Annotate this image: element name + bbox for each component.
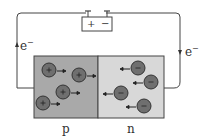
current-arrow-left-icon — [15, 42, 19, 47]
battery-negative-label: − — [101, 19, 109, 29]
electron-label-left: e− — [20, 39, 34, 52]
current-arrow-right-icon — [178, 50, 182, 55]
electron-charge: − — [192, 44, 199, 53]
electron-charge: − — [27, 38, 34, 47]
electron-label-right: e− — [185, 45, 199, 58]
p-region-label: p — [62, 123, 70, 135]
n-region-label: n — [127, 123, 135, 135]
battery-positive-label: + — [87, 19, 95, 29]
